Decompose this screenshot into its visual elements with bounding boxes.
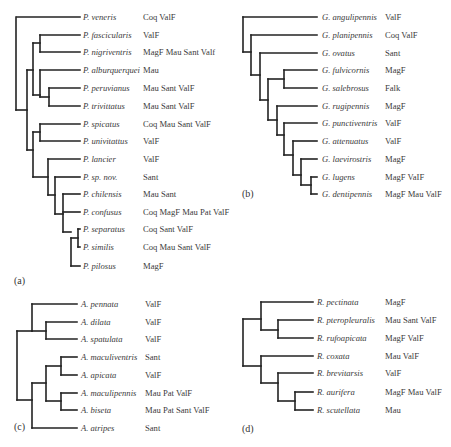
distribution-regions: Mau Sant ValF	[143, 83, 195, 93]
distribution-regions: Mau ValF	[385, 351, 419, 361]
distribution-regions: ValF	[385, 12, 401, 22]
taxon-name: P. spicatus	[82, 119, 120, 129]
distribution-regions: Coq Mau Sant ValF	[143, 119, 211, 129]
distribution-regions: Sant	[145, 423, 161, 433]
distribution-regions: ValF	[143, 136, 159, 146]
distribution-regions: Falk	[385, 83, 401, 93]
distribution-regions: ValF	[145, 299, 161, 309]
distribution-regions: MagF ValF	[385, 333, 424, 343]
distribution-regions: ValF	[385, 118, 401, 128]
taxon-name: R. rufoapicata	[316, 333, 367, 343]
distribution-regions: Coq Sant ValF	[143, 224, 193, 234]
tree-panel-b: G. angulipennisValFG. planipennisCoq Val…	[242, 12, 442, 200]
taxon-name: P. separatus	[82, 224, 126, 234]
taxon-name: G. punctiventris	[322, 118, 378, 128]
distribution-regions: Sant	[145, 352, 161, 362]
distribution-regions: Mau	[385, 405, 401, 415]
taxon-name: P. veneris	[82, 12, 117, 22]
taxon-name: A. maculipennis	[80, 388, 137, 398]
distribution-regions: Coq Mau Sant ValF	[143, 242, 211, 252]
taxon-name: P. confusus	[82, 207, 122, 217]
distribution-regions: Mau Pat Sant ValF	[145, 405, 210, 415]
taxon-name: G. rugipennis	[322, 101, 370, 111]
taxon-name: G. ovatus	[322, 48, 356, 58]
taxon-name: G. fulvicornis	[322, 65, 370, 75]
distribution-regions: Mau	[143, 65, 159, 75]
taxon-name: P. pilosus	[82, 261, 116, 271]
distribution-regions: Mau Sant ValF	[385, 315, 437, 325]
distribution-regions: Mau Sant	[143, 189, 177, 199]
tree-panel-d: R. pectinataMagFR. pteropleuralisMau San…	[242, 297, 442, 435]
taxon-name: P. trivittatus	[82, 101, 126, 111]
distribution-regions: MagF Mau Sant Valf	[143, 47, 215, 57]
taxon-name: G. laevirostris	[322, 154, 372, 164]
distribution-regions: ValF	[145, 370, 161, 380]
taxon-name: A. atripes	[80, 423, 115, 433]
taxon-name: R. brevitarsis	[316, 368, 364, 378]
distribution-regions: Mau Pat ValF	[145, 388, 192, 398]
phylogeny-figure: P. venerisCoq ValFP. fascicularisValFP. …	[0, 0, 451, 447]
taxon-name: A. spatulata	[80, 334, 123, 344]
taxon-name: P. univitattus	[82, 136, 128, 146]
distribution-regions: Sant	[385, 48, 401, 58]
taxon-name: P. nigriventris	[82, 47, 132, 57]
taxon-name: A. pennata	[80, 299, 118, 309]
distribution-regions: Coq ValF	[143, 12, 176, 22]
panel-label: (c)	[14, 421, 25, 433]
taxon-name: A. maculiventris	[80, 352, 138, 362]
distribution-regions: MagF Mau ValF	[385, 387, 442, 397]
distribution-regions: MagF	[143, 261, 164, 271]
tree-panel-a: P. venerisCoq ValFP. fascicularisValFP. …	[14, 12, 229, 287]
distribution-regions: MagF	[385, 154, 406, 164]
taxon-name: G. planipennis	[322, 30, 373, 40]
taxon-name: A. apicata	[80, 370, 116, 380]
taxon-name: P. similis	[82, 242, 115, 252]
panel-label: (d)	[242, 423, 254, 435]
taxon-name: P. lancier	[82, 154, 116, 164]
taxon-name: R. aurifera	[316, 387, 355, 397]
distribution-regions: MagF VaIF	[385, 172, 424, 182]
taxon-name: P. peruvianus	[82, 83, 130, 93]
panel-label: (a)	[14, 275, 25, 287]
distribution-regions: ValF	[145, 334, 161, 344]
taxon-name: G. attenuatus	[322, 136, 369, 146]
taxon-name: P. sp. nov.	[82, 172, 117, 182]
distribution-regions: MagF	[385, 65, 406, 75]
distribution-regions: ValF	[143, 30, 159, 40]
taxon-name: A. dilata	[80, 317, 111, 327]
taxon-name: R. scutellata	[316, 405, 360, 415]
distribution-regions: Coq MagF Mau Pat ValF	[143, 207, 229, 217]
distribution-regions: MagF Mau ValF	[385, 189, 442, 199]
distribution-regions: ValF	[145, 317, 161, 327]
taxon-name: P. fascicularis	[82, 30, 132, 40]
taxon-name: G. salebrosus	[322, 83, 370, 93]
distribution-regions: ValF	[385, 136, 401, 146]
tree-panel-c: A. pennataValFA. dilataValFA. spatulataV…	[14, 299, 210, 433]
taxon-name: P. alburquerquei	[82, 65, 141, 75]
taxon-name: P. chilensis	[82, 189, 122, 199]
taxon-name: R. pectinata	[316, 297, 359, 307]
distribution-regions: Mau Sant ValF	[143, 101, 195, 111]
distribution-regions: ValF	[385, 368, 401, 378]
taxon-name: G. angulipennis	[322, 12, 378, 22]
taxon-name: G. lugens	[322, 172, 356, 182]
taxon-name: A. biseta	[80, 405, 111, 415]
taxon-name: R. pteropleuralis	[316, 315, 376, 325]
distribution-regions: Coq ValF	[385, 30, 418, 40]
panel-label: (b)	[242, 188, 254, 200]
distribution-regions: Sant	[143, 172, 159, 182]
distribution-regions: ValF	[143, 154, 159, 164]
taxon-name: G. dentipennis	[322, 189, 373, 199]
distribution-regions: MagF	[385, 101, 406, 111]
distribution-regions: MagF	[385, 297, 406, 307]
taxon-name: R. coxata	[316, 351, 349, 361]
